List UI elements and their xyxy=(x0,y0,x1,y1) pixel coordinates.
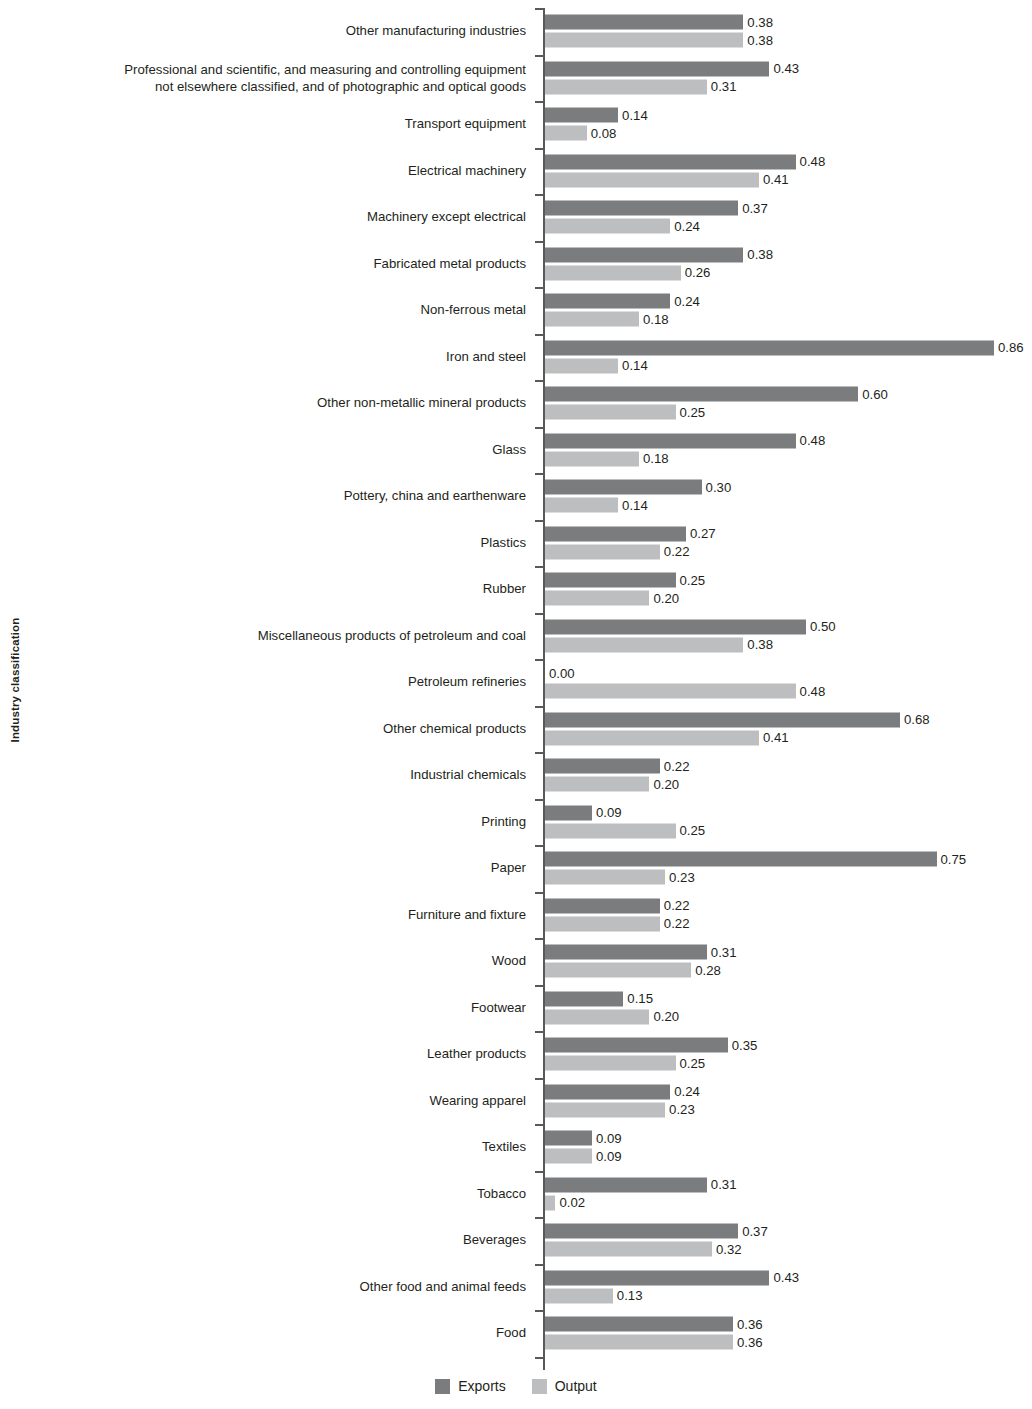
category-label: Fabricated metal products xyxy=(0,255,535,273)
chart-row: Other chemical products0.680.41 xyxy=(0,706,1032,753)
axis-tick xyxy=(535,799,544,801)
category-label: Other food and animal feeds xyxy=(0,1278,535,1296)
bar-value-label: 0.32 xyxy=(712,1243,742,1256)
bar-value-label: 0.09 xyxy=(592,1150,622,1163)
bar-value-label: 0.23 xyxy=(665,871,695,884)
bar-value-label: 0.24 xyxy=(670,295,700,308)
category-label: Wood xyxy=(0,953,535,971)
axis-tick xyxy=(535,845,544,847)
bar-group: 0.300.14 xyxy=(545,480,1032,513)
bar-wrapper: 0.25 xyxy=(545,823,1032,838)
bar-value-label: 0.13 xyxy=(613,1289,643,1302)
category-label: Petroleum refineries xyxy=(0,674,535,692)
bar-wrapper: 0.25 xyxy=(545,405,1032,420)
bar-value-label: 0.20 xyxy=(649,592,679,605)
bar-value-label: 0.35 xyxy=(728,1039,758,1052)
bar-wrapper: 0.23 xyxy=(545,870,1032,885)
bar-value-label: 0.38 xyxy=(743,16,773,29)
bar-wrapper: 0.20 xyxy=(545,777,1032,792)
bar-group: 0.860.14 xyxy=(545,340,1032,373)
bar-value-label: 0.37 xyxy=(738,1225,768,1238)
bar-value-label: 0.02 xyxy=(555,1196,585,1209)
axis-tick xyxy=(535,1357,544,1359)
bar-exports xyxy=(545,1317,733,1332)
bar-group: 0.220.22 xyxy=(545,898,1032,931)
category-label: Textiles xyxy=(0,1139,535,1157)
bar-output xyxy=(545,870,665,885)
chart-row: Textiles0.090.09 xyxy=(0,1124,1032,1171)
bar-value-label: 0.00 xyxy=(545,667,575,680)
bar-group: 0.310.28 xyxy=(545,945,1032,978)
bar-value-label: 0.38 xyxy=(743,638,773,651)
chart-row: Iron and steel0.860.14 xyxy=(0,334,1032,381)
bar-output xyxy=(545,451,639,466)
axis-tick xyxy=(535,148,544,150)
legend-item-exports[interactable]: Exports xyxy=(435,1378,505,1394)
chart-row: Tobacco0.310.02 xyxy=(0,1171,1032,1218)
category-label: Plastics xyxy=(0,534,535,552)
bar-wrapper: 0.02 xyxy=(545,1195,1032,1210)
bar-group: 0.000.48 xyxy=(545,666,1032,699)
chart-row: Machinery except electrical0.370.24 xyxy=(0,194,1032,241)
bar-wrapper: 0.24 xyxy=(545,1084,1032,1099)
bar-output xyxy=(545,684,796,699)
bar-value-label: 0.38 xyxy=(743,34,773,47)
bar-wrapper: 0.22 xyxy=(545,898,1032,913)
bar-output xyxy=(545,1288,613,1303)
bar-exports xyxy=(545,108,618,123)
bar-wrapper: 0.48 xyxy=(545,684,1032,699)
bar-value-label: 0.36 xyxy=(733,1318,763,1331)
chart-row: Beverages0.370.32 xyxy=(0,1217,1032,1264)
bar-value-label: 0.41 xyxy=(759,173,789,186)
bar-group: 0.090.25 xyxy=(545,805,1032,838)
bar-wrapper: 0.25 xyxy=(545,573,1032,588)
axis-tick xyxy=(535,985,544,987)
bar-group: 0.140.08 xyxy=(545,108,1032,141)
bar-wrapper: 0.60 xyxy=(545,387,1032,402)
bar-exports xyxy=(545,154,796,169)
chart-row: Paper0.750.23 xyxy=(0,845,1032,892)
bar-group: 0.600.25 xyxy=(545,387,1032,420)
bar-group: 0.430.31 xyxy=(545,61,1032,94)
bar-value-label: 0.36 xyxy=(733,1336,763,1349)
axis-tick xyxy=(535,613,544,615)
category-label: Machinery except electrical xyxy=(0,209,535,227)
chart-row: Glass0.480.18 xyxy=(0,427,1032,474)
axis-tick xyxy=(535,1217,544,1219)
category-label: Professional and scientific, and measuri… xyxy=(0,60,535,95)
category-label: Furniture and fixture xyxy=(0,906,535,924)
bar-value-label: 0.26 xyxy=(681,266,711,279)
bar-value-label: 0.48 xyxy=(796,155,826,168)
category-label: Paper xyxy=(0,860,535,878)
bar-exports xyxy=(545,852,937,867)
bar-value-label: 0.68 xyxy=(900,713,930,726)
bar-output xyxy=(545,79,707,94)
bar-exports xyxy=(545,294,670,309)
bar-exports xyxy=(545,991,623,1006)
axis-tick xyxy=(535,1171,544,1173)
bar-exports xyxy=(545,712,900,727)
category-label: Wearing apparel xyxy=(0,1092,535,1110)
bar-exports xyxy=(545,1177,707,1192)
bar-wrapper: 0.41 xyxy=(545,730,1032,745)
bar-wrapper: 0.43 xyxy=(545,61,1032,76)
category-label: Glass xyxy=(0,441,535,459)
bar-wrapper: 0.25 xyxy=(545,1056,1032,1071)
chart-row: Food0.360.36 xyxy=(0,1310,1032,1357)
bar-output xyxy=(545,33,743,48)
bar-wrapper: 0.37 xyxy=(545,201,1032,216)
chart-row: Petroleum refineries0.000.48 xyxy=(0,659,1032,706)
bar-group: 0.240.18 xyxy=(545,294,1032,327)
axis-tick xyxy=(535,473,544,475)
bar-output xyxy=(545,1242,712,1257)
chart-row: Electrical machinery0.480.41 xyxy=(0,148,1032,195)
bar-wrapper: 0.31 xyxy=(545,1177,1032,1192)
axis-tick xyxy=(535,1124,544,1126)
bar-value-label: 0.48 xyxy=(796,685,826,698)
bar-output xyxy=(545,172,759,187)
chart-row: Fabricated metal products0.380.26 xyxy=(0,241,1032,288)
bar-output xyxy=(545,777,649,792)
legend-item-output[interactable]: Output xyxy=(532,1378,597,1394)
axis-tick xyxy=(535,1078,544,1080)
bar-wrapper: 0.22 xyxy=(545,759,1032,774)
